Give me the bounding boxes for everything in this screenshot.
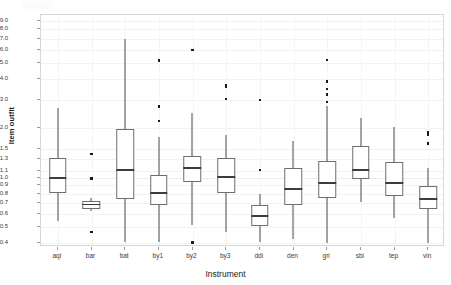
whisker-lower bbox=[158, 205, 159, 241]
outlier-point bbox=[259, 169, 262, 172]
median-line bbox=[49, 177, 67, 179]
whisker-upper bbox=[125, 39, 126, 130]
box-iqr bbox=[116, 129, 134, 199]
x-axis-ticks: aqibarbatby1by2by3ddidengrisbitepvin bbox=[40, 247, 444, 267]
x-tick-label: gri bbox=[323, 252, 330, 259]
y-tick-label: 1.5 bbox=[0, 145, 8, 151]
boxplot-by1 bbox=[142, 15, 176, 245]
outlier-point bbox=[326, 93, 329, 96]
median-line bbox=[386, 182, 404, 184]
y-tick-label: 0.9 bbox=[0, 181, 8, 187]
x-tick-mark bbox=[326, 247, 327, 250]
median-line bbox=[419, 198, 437, 200]
y-tick-label: 4.0 bbox=[0, 75, 8, 81]
outlier-point bbox=[225, 98, 228, 101]
x-tick-mark bbox=[225, 247, 226, 250]
whisker-lower bbox=[91, 209, 92, 211]
outlier-point bbox=[90, 177, 93, 180]
box-iqr bbox=[318, 161, 336, 198]
x-tick-label: sbi bbox=[356, 252, 364, 259]
x-tick-label: tep bbox=[389, 252, 398, 259]
outlier-point bbox=[158, 59, 161, 62]
x-tick-mark bbox=[360, 247, 361, 250]
box-iqr bbox=[49, 158, 67, 193]
outlier-point bbox=[326, 88, 329, 91]
outlier-point bbox=[90, 153, 93, 156]
whisker-upper bbox=[360, 118, 361, 146]
y-tick-label: 1.3 bbox=[0, 155, 8, 161]
x-tick-label: by3 bbox=[220, 252, 230, 259]
median-line bbox=[83, 204, 101, 206]
whisker-upper bbox=[226, 135, 227, 158]
x-axis-title: Instrument bbox=[0, 269, 451, 279]
median-line bbox=[150, 192, 168, 194]
whisker-lower bbox=[428, 209, 429, 243]
whisker-upper bbox=[158, 137, 159, 175]
whisker-upper bbox=[428, 168, 429, 186]
outlier-point bbox=[191, 241, 194, 244]
median-line bbox=[318, 182, 336, 184]
outlier-point bbox=[326, 80, 329, 83]
x-tick-label: bar bbox=[86, 252, 95, 259]
x-tick-mark bbox=[57, 247, 58, 250]
x-tick-label: ddi bbox=[254, 252, 263, 259]
boxplot-sbi bbox=[344, 15, 378, 245]
plot-panel bbox=[40, 14, 444, 246]
boxplot-figure: Item outfit 0.40.50.60.70.80.91.01.11.31… bbox=[0, 0, 451, 285]
y-axis-title-text: Item outfit bbox=[8, 106, 17, 143]
whisker-upper bbox=[57, 108, 58, 158]
whisker-lower bbox=[192, 182, 193, 224]
boxplot-bat bbox=[108, 15, 142, 245]
x-tick-mark bbox=[394, 247, 395, 250]
whisker-lower bbox=[259, 226, 260, 242]
box-iqr bbox=[352, 146, 370, 178]
whisker-lower bbox=[57, 193, 58, 221]
y-tick-label: 0.7 bbox=[0, 199, 8, 205]
y-tick-label: 5.0 bbox=[0, 59, 8, 65]
boxplot-den bbox=[277, 15, 311, 245]
y-tick-label: 0.5 bbox=[0, 223, 8, 229]
x-tick-mark bbox=[427, 247, 428, 250]
y-tick-label: 9.0 bbox=[0, 17, 8, 23]
median-line bbox=[285, 188, 303, 190]
box-iqr bbox=[184, 156, 202, 182]
boxplot-bar bbox=[75, 15, 109, 245]
y-tick-label: 3.0 bbox=[0, 96, 8, 102]
y-axis-title: Item outfit bbox=[4, 0, 20, 250]
outlier-point bbox=[326, 101, 329, 104]
x-tick-label: by1 bbox=[153, 252, 163, 259]
x-tick-label: by2 bbox=[186, 252, 196, 259]
whisker-upper bbox=[327, 106, 328, 160]
x-axis-title-text: Instrument bbox=[205, 269, 245, 279]
x-tick-mark bbox=[192, 247, 193, 250]
whisker-lower bbox=[360, 179, 361, 203]
median-line bbox=[184, 167, 202, 169]
outlier-point bbox=[225, 86, 228, 89]
outlier-point bbox=[158, 105, 161, 108]
boxplot-aqi bbox=[41, 15, 75, 245]
y-tick-label: 0.8 bbox=[0, 190, 8, 196]
x-tick-label: bat bbox=[120, 252, 129, 259]
whisker-upper bbox=[192, 113, 193, 156]
y-tick-label: 8.0 bbox=[0, 25, 8, 31]
plot-area bbox=[40, 14, 444, 246]
x-tick-mark bbox=[259, 247, 260, 250]
boxplot-by2 bbox=[176, 15, 210, 245]
x-tick-label: vin bbox=[423, 252, 431, 259]
boxplot-vin bbox=[411, 15, 444, 245]
y-tick-label: 0.4 bbox=[0, 239, 8, 245]
top-artifact bbox=[22, 1, 52, 9]
boxplot-tep bbox=[378, 15, 412, 245]
whisker-lower bbox=[293, 205, 294, 239]
x-tick-mark bbox=[293, 247, 294, 250]
boxplot-gri bbox=[310, 15, 344, 245]
boxplot-by3 bbox=[209, 15, 243, 245]
whisker-lower bbox=[327, 198, 328, 243]
median-line bbox=[217, 176, 235, 178]
median-line bbox=[116, 169, 134, 171]
y-tick-label: 6.0 bbox=[0, 46, 8, 52]
y-tick-label: 7.0 bbox=[0, 35, 8, 41]
outlier-point bbox=[191, 49, 194, 52]
median-line bbox=[251, 215, 269, 217]
whisker-upper bbox=[259, 194, 260, 205]
